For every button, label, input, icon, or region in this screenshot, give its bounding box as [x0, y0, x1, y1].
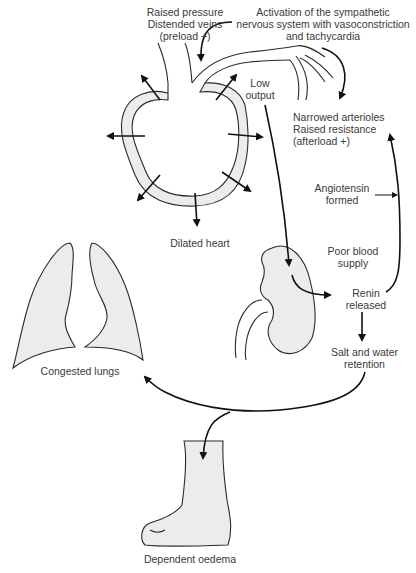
label-line: released	[336, 299, 396, 311]
label-renin: Renin released	[336, 287, 396, 311]
label-line: (preload +)	[130, 30, 240, 42]
swollen-foot-shape	[142, 441, 231, 546]
label-line: supply	[318, 257, 388, 269]
label-line: output	[240, 89, 280, 101]
label-line: Renin	[336, 287, 396, 299]
label-preload: Raised pressure Distended veins (preload…	[130, 6, 240, 42]
label-line: formed	[312, 194, 372, 206]
label-line: Poor blood	[318, 245, 388, 257]
label-congested-lungs: Congested lungs	[30, 365, 130, 377]
label-line: (afterload +)	[293, 135, 385, 147]
kidney-shape	[235, 246, 315, 360]
label-low-output: Low output	[240, 77, 280, 101]
label-dependent-oedema: Dependent oedema	[140, 553, 240, 565]
label-line: Narrowed arterioles	[293, 111, 385, 123]
label-line: Salt and water	[322, 346, 407, 358]
label-angiotensin: Angiotensin formed	[312, 182, 372, 206]
label-poor-blood-supply: Poor blood supply	[318, 245, 388, 269]
label-line: nervous system with vasoconstriction	[233, 18, 413, 30]
label-line: Low	[240, 77, 280, 89]
label-afterload: Narrowed arterioles Raised resistance (a…	[293, 111, 385, 147]
label-dilated-heart: Dilated heart	[155, 237, 245, 249]
label-line: retention	[322, 358, 407, 370]
label-salt-water: Salt and water retention	[322, 346, 407, 370]
label-line: Distended veins	[130, 18, 240, 30]
label-line: Raised resistance	[293, 123, 385, 135]
lungs-shape	[13, 243, 143, 368]
label-line: and tachycardia	[233, 30, 413, 42]
label-sympathetic: Activation of the sympathetic nervous sy…	[233, 6, 413, 42]
label-line: Activation of the sympathetic	[233, 6, 413, 18]
label-line: Raised pressure	[130, 6, 240, 18]
label-line: Angiotensin	[312, 182, 372, 194]
